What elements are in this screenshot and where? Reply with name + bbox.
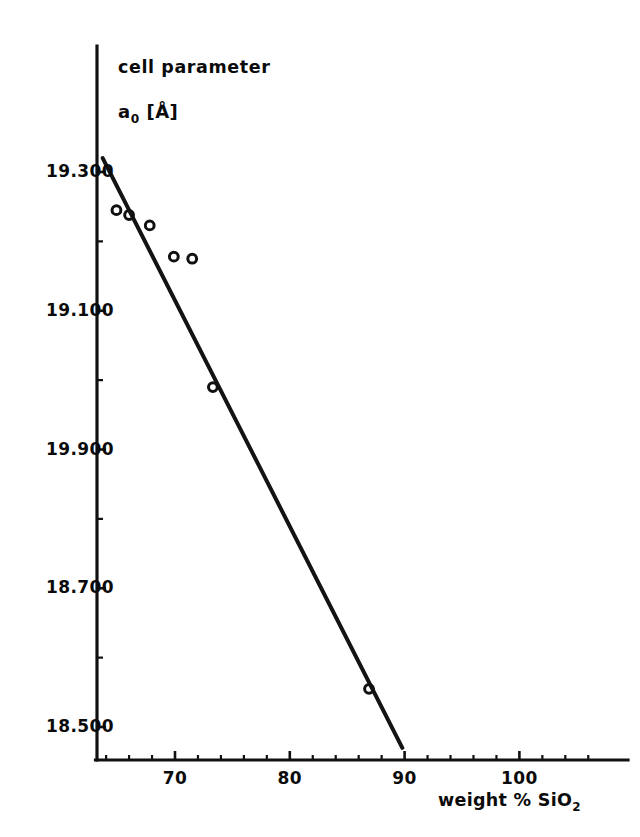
y-axis-symbol: a [118, 101, 131, 122]
y-axis-tick-label: 19.900 [28, 439, 114, 459]
x-axis-tick-label: 100 [497, 768, 541, 788]
chart-figure: 19.30019.10019.90018.70018.500 708090100… [0, 0, 640, 837]
y-axis-unit: [Å] [146, 101, 178, 122]
y-axis-title-line2: a0 [Å] [118, 101, 178, 126]
y-axis-tick-label: 19.100 [28, 300, 114, 320]
x-axis-title: weight % SiO2 [438, 790, 581, 814]
x-axis-title-subscript: 2 [572, 800, 581, 814]
y-axis-tick-label: 19.300 [28, 161, 114, 181]
x-axis-title-text: weight % SiO [438, 790, 572, 810]
y-axis-title-line1: cell parameter [118, 57, 270, 77]
y-axis-symbol-subscript: 0 [131, 112, 140, 126]
axes [96, 46, 629, 760]
y-axis-tick-label: 18.700 [28, 577, 114, 597]
x-axis-tick-label: 90 [383, 768, 427, 788]
x-axis-tick-label: 70 [153, 768, 197, 788]
x-axis-tick-label: 80 [268, 768, 312, 788]
chart-canvas [0, 0, 640, 837]
y-axis-tick-label: 18.500 [28, 716, 114, 736]
data-points [112, 206, 373, 693]
linear-fit-line [103, 158, 403, 748]
